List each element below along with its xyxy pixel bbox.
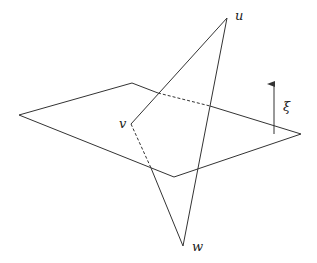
vertex-label-u: u [235, 9, 243, 22]
plane-edge-left-top [19, 83, 132, 115]
triangle-edge-v-u [131, 18, 227, 124]
normal-vector-label-xi: ξ [283, 100, 290, 113]
plane-edge-right-bottom [174, 134, 301, 177]
diagram-figure: u v w ξ [0, 0, 317, 263]
vertex-label-v: v [119, 117, 126, 130]
triangle-edge-v-w-visible [151, 168, 183, 246]
vertex-label-w: w [192, 240, 203, 253]
diagram-canvas [0, 0, 317, 263]
plane-edge-top-right-hidden [158, 93, 210, 106]
plane-edge-top-right-solid-a [132, 83, 158, 93]
triangle-edge-u-w [183, 18, 227, 246]
